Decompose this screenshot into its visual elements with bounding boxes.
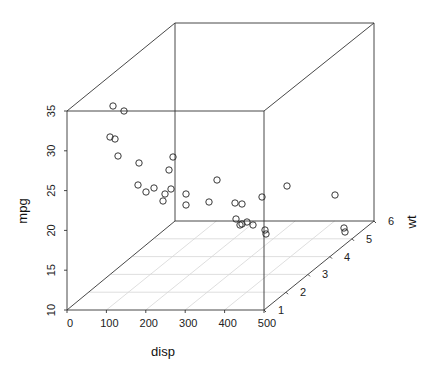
data-point <box>143 189 149 195</box>
data-points <box>107 103 348 237</box>
tick-labels: 0100200300400500101520253035123456 <box>45 105 394 329</box>
wt-tick-label: 3 <box>322 268 328 280</box>
data-point <box>214 177 220 183</box>
data-point <box>183 191 189 197</box>
data-point <box>166 167 172 173</box>
z-axis-title: mpg <box>15 198 30 223</box>
z-tick-label: 25 <box>45 184 57 196</box>
data-point <box>162 191 168 197</box>
wt-tick-label: 6 <box>388 215 394 227</box>
data-point <box>232 200 238 206</box>
wt-tick-label: 2 <box>300 286 306 298</box>
bounding-box <box>67 23 374 310</box>
data-point <box>239 201 245 207</box>
z-tick-label: 15 <box>45 264 57 276</box>
x-tick-label: 400 <box>218 317 236 329</box>
scatter3d-plot: 0100200300400500101520253035123456 disp … <box>0 0 441 372</box>
x-tick-label: 100 <box>100 317 118 329</box>
y-axis-title: wt <box>404 215 419 229</box>
data-point <box>183 202 189 208</box>
data-point <box>110 103 116 109</box>
floor-grid <box>89 221 352 310</box>
wt-tick-label: 1 <box>278 304 284 316</box>
x-tick-label: 0 <box>67 317 73 329</box>
wt-tick-label: 5 <box>366 233 372 245</box>
data-point <box>262 227 268 233</box>
x-tick-label: 500 <box>258 317 276 329</box>
data-point <box>115 153 121 159</box>
data-point <box>136 160 142 166</box>
data-point <box>332 192 338 198</box>
z-tick-label: 30 <box>45 145 57 157</box>
x-tick-label: 200 <box>140 317 158 329</box>
data-point <box>135 182 141 188</box>
x-axis-title: disp <box>151 344 175 359</box>
wt-tick-label: 4 <box>344 251 350 263</box>
data-point <box>341 225 347 231</box>
z-tick-label: 10 <box>45 304 57 316</box>
data-point <box>342 229 348 235</box>
axis-ticks <box>64 111 376 313</box>
data-point <box>206 199 212 205</box>
z-tick-label: 20 <box>45 224 57 236</box>
x-tick-label: 300 <box>179 317 197 329</box>
z-tick-label: 35 <box>45 105 57 117</box>
data-point <box>284 183 290 189</box>
data-point <box>160 198 166 204</box>
data-point <box>151 185 157 191</box>
data-point <box>168 186 174 192</box>
